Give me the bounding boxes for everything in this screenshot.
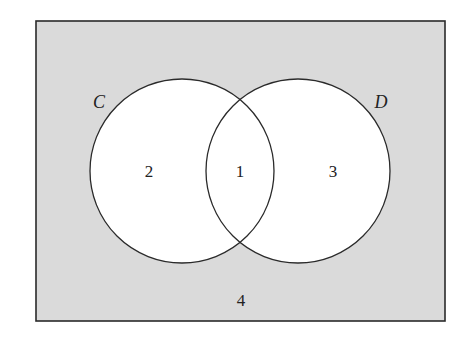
region-3-label: 3	[329, 162, 338, 181]
venn-diagram: C D 1 2 3 4	[0, 0, 465, 357]
set-d-interior	[206, 79, 390, 263]
region-2-label: 2	[145, 162, 154, 181]
region-4-label: 4	[237, 291, 246, 310]
set-d-label: D	[374, 92, 388, 112]
set-c-label: C	[93, 92, 106, 112]
region-1-label: 1	[236, 162, 245, 181]
